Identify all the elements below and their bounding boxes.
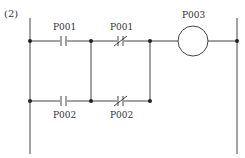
label-bottom-no-contact: P002: [53, 111, 76, 120]
contact-no-icon: [61, 36, 66, 46]
junction-dot: [28, 39, 32, 43]
junction-dot: [148, 39, 152, 43]
junction-dot: [28, 99, 32, 103]
junction-dot: [89, 39, 93, 43]
junction-dot: [235, 39, 239, 43]
label-top-no-contact: P001: [53, 23, 76, 32]
contact-no-icon: [61, 96, 66, 106]
junction-dot: [148, 99, 152, 103]
label-coil: P003: [182, 11, 205, 20]
label-top-nc-contact: P001: [110, 23, 133, 32]
junction-dot: [89, 99, 93, 103]
label-bottom-nc-contact: P002: [110, 111, 133, 120]
coil-icon: [178, 26, 208, 56]
